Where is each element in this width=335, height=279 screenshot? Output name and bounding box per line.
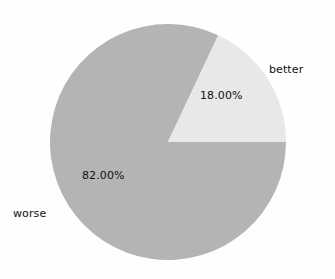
pie-chart-canvas <box>0 0 335 279</box>
pie-chart: better 18.00% 82.00% worse <box>0 0 335 279</box>
pie-label-worse: worse <box>13 208 46 219</box>
pie-value-better: 18.00% <box>200 90 243 101</box>
pie-label-better: better <box>269 64 303 75</box>
pie-value-worse: 82.00% <box>82 170 125 181</box>
